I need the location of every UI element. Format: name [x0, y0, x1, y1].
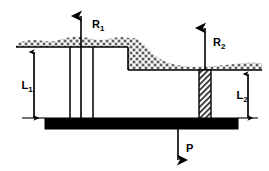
- foundation-slab: [45, 118, 238, 129]
- label-p-base: P: [186, 142, 193, 154]
- right-hatched-pile: [199, 70, 211, 119]
- label-r2-sub: 2: [221, 42, 226, 51]
- soil-upper-fill: [16, 37, 128, 47]
- right-pile-body: [199, 70, 211, 119]
- label-p: P: [186, 142, 193, 154]
- label-r2: R2: [213, 36, 226, 51]
- label-l2: L2: [236, 89, 248, 104]
- label-r1: R1: [92, 18, 105, 33]
- label-l2-sub: 2: [243, 95, 248, 104]
- figure-canvas: R1 R2 P L1 L2: [0, 0, 269, 171]
- label-l1: L1: [21, 79, 33, 94]
- engineering-figure: R1 R2 P L1 L2: [0, 0, 269, 171]
- label-r2-base: R: [213, 36, 221, 48]
- soil-upper-mound: [16, 37, 128, 47]
- label-r1-sub: 1: [100, 24, 105, 33]
- label-r1-base: R: [92, 18, 100, 30]
- soil-slope-fill: [128, 38, 262, 70]
- soil-slope-wedge: [128, 38, 262, 70]
- label-l1-sub: 1: [28, 85, 33, 94]
